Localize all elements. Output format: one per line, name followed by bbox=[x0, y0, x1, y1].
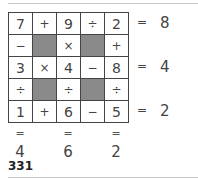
grid-cell: 9 bbox=[57, 13, 81, 35]
operator-cell: + bbox=[33, 13, 57, 35]
grid-cell: 8 bbox=[105, 57, 129, 79]
grid-row: 3 × 4 − 8 bbox=[9, 57, 129, 79]
column-result: 6 bbox=[56, 143, 80, 161]
operator-cell: − bbox=[81, 57, 105, 79]
column-equals-sign: = bbox=[104, 127, 128, 140]
operator-cell: ÷ bbox=[9, 79, 33, 101]
grid-row: ÷ ÷ ÷ bbox=[9, 79, 129, 101]
shaded-cell bbox=[33, 35, 57, 57]
row-equals-sign: = bbox=[137, 103, 147, 117]
grid-cell: 2 bbox=[105, 13, 129, 35]
operator-cell: × bbox=[57, 35, 81, 57]
puzzle-grid: 7 + 9 ÷ 2 − × + 3 × 4 − 8 ÷ ÷ ÷ 1 + 6 − … bbox=[8, 12, 129, 123]
row-result: 2 bbox=[160, 102, 170, 120]
row-equals-sign: = bbox=[137, 15, 147, 29]
column-equals-sign: = bbox=[56, 127, 80, 140]
grid-cell: 5 bbox=[105, 101, 129, 123]
operator-cell: ÷ bbox=[105, 79, 129, 101]
grid-row: 1 + 6 − 5 bbox=[9, 101, 129, 123]
operator-cell: + bbox=[105, 35, 129, 57]
bottom-divider bbox=[8, 177, 198, 178]
top-divider bbox=[8, 3, 198, 4]
row-result: 8 bbox=[160, 14, 170, 32]
shaded-cell bbox=[81, 35, 105, 57]
operator-cell: ÷ bbox=[81, 13, 105, 35]
grid-row: 7 + 9 ÷ 2 bbox=[9, 13, 129, 35]
grid-cell: 4 bbox=[57, 57, 81, 79]
operator-cell: × bbox=[33, 57, 57, 79]
operator-cell: + bbox=[33, 101, 57, 123]
operator-cell: − bbox=[9, 35, 33, 57]
grid-cell: 6 bbox=[57, 101, 81, 123]
grid-cell: 3 bbox=[9, 57, 33, 79]
shaded-cell bbox=[33, 79, 57, 101]
column-equals-sign: = bbox=[8, 127, 32, 140]
row-equals-sign: = bbox=[137, 59, 147, 73]
operator-cell: − bbox=[81, 101, 105, 123]
column-result: 2 bbox=[104, 143, 128, 161]
grid-cell: 7 bbox=[9, 13, 33, 35]
operator-cell: ÷ bbox=[57, 79, 81, 101]
grid-row: − × + bbox=[9, 35, 129, 57]
row-result: 4 bbox=[160, 58, 170, 76]
page-number: 331 bbox=[8, 159, 33, 173]
grid-cell: 1 bbox=[9, 101, 33, 123]
shaded-cell bbox=[81, 79, 105, 101]
